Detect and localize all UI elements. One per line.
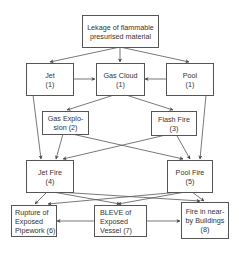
- node-pool: Pool (1): [166, 63, 214, 96]
- edge-leak-pool: [120, 47, 189, 62]
- node-jet-line1: Jet: [45, 71, 55, 80]
- node-jet: Jet (1): [26, 63, 74, 96]
- node-pool-line2: (1): [186, 80, 195, 89]
- node-flash-fire-line1: Flash Fire: [158, 115, 190, 124]
- edge-explosion-poolfire: [72, 134, 183, 159]
- node-gas-cloud-line2: (1): [116, 80, 125, 89]
- node-fire-buildings-line3: (8): [201, 225, 210, 234]
- edge-pool-poolfire: [200, 95, 206, 159]
- node-fire-buildings-line1: Fire in near-: [186, 207, 225, 216]
- edge-poolfire-bleve: [118, 192, 185, 204]
- node-rupture-line1: Rupture of: [15, 208, 49, 217]
- edge-jet-jetfire: [33, 95, 41, 159]
- edge-gascloud-flashfire: [126, 95, 173, 110]
- node-gas-explosion-line1: Gas Explo-: [48, 114, 84, 123]
- edge-flashfire-poolfire: [176, 134, 190, 159]
- edge-poolfire-rupture: [48, 192, 180, 204]
- node-leakage: Lekage of flammable presurised material: [82, 15, 159, 48]
- edge-explosion-jetfire: [56, 134, 63, 159]
- node-bleve: BLEVE of Exposed Vessel (7): [94, 205, 147, 237]
- edge-gascloud-explosion: [67, 95, 114, 110]
- node-bleve-line3: Vessel (7): [100, 226, 132, 235]
- node-jet-fire-line2: (4): [46, 177, 55, 186]
- node-flash-fire-line2: (3): [170, 124, 179, 133]
- edge-flashfire-jetfire: [63, 134, 170, 159]
- node-bleve-line1: BLEVE of: [100, 208, 131, 217]
- node-bleve-line2: Exposed: [100, 217, 128, 226]
- node-jet-line2: (1): [46, 80, 55, 89]
- node-jet-fire: Jet Fire (4): [26, 160, 74, 193]
- node-rupture-line3: Pipework (6): [15, 226, 55, 235]
- node-gas-cloud: Gas Cloud (1): [96, 63, 145, 96]
- node-pool-fire-line1: Pool Fire: [176, 168, 205, 177]
- node-gas-explosion-line2: sion (2): [54, 123, 78, 132]
- node-gas-explosion: Gas Explo- sion (2): [42, 111, 89, 135]
- edge-leak-jet: [50, 47, 120, 62]
- node-flash-fire: Flash Fire (3): [151, 111, 197, 136]
- edge-poolfire-buildings: [192, 192, 204, 201]
- node-jet-fire-line1: Jet Fire: [38, 168, 62, 177]
- node-rupture-line2: Exposed: [15, 217, 43, 226]
- node-pool-line1: Pool: [183, 71, 197, 80]
- node-leakage-line1: Lekage of flammable: [87, 23, 154, 32]
- node-gas-cloud-line1: Gas Cloud: [104, 71, 138, 80]
- edge-jetfire-rupture: [35, 192, 47, 204]
- node-leakage-line2: presurised material: [90, 32, 151, 41]
- node-rupture: Rupture of Exposed Pipework (6): [11, 205, 57, 237]
- node-fire-buildings: Fire in near- by Buildings (8): [181, 202, 229, 239]
- node-fire-buildings-line2: by Buildings: [186, 216, 225, 225]
- node-pool-fire: Pool Fire (5): [167, 160, 213, 193]
- node-pool-fire-line2: (5): [186, 177, 195, 186]
